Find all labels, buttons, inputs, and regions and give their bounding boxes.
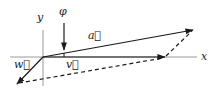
vector-v-label: v⃗ <box>66 58 79 71</box>
vector-w-label: w⃗ <box>14 58 30 71</box>
phi-label: φ <box>59 5 67 18</box>
y-axis-label: y <box>36 11 44 24</box>
x-axis-label: x <box>201 50 208 63</box>
vector-a-label: a⃗ <box>88 29 101 42</box>
dashed-line-w-to-v <box>19 58 163 83</box>
vector-diagram: y x φ a⃗ v⃗ w⃗ <box>0 0 219 94</box>
vector-a <box>43 30 193 57</box>
